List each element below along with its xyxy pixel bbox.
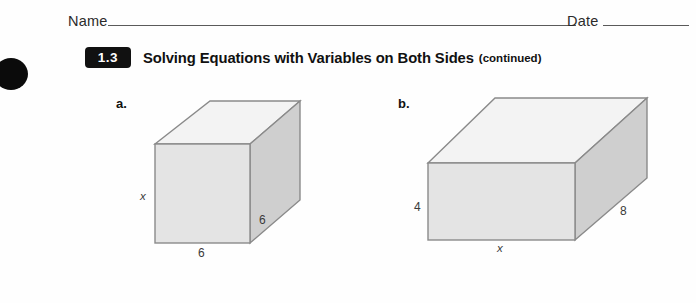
- figure-b-prism-drawing: [380, 88, 680, 268]
- figure-b-depth-label: 8: [620, 204, 627, 218]
- figure-a-depth-label: 6: [259, 213, 266, 227]
- lesson-header: 1.3 Solving Equations with Variables on …: [85, 47, 541, 68]
- figure-a-front-face: [155, 144, 250, 243]
- name-field[interactable]: Name: [68, 12, 576, 29]
- figure-a-height-label: x: [140, 190, 146, 202]
- hole-punch-mark: [0, 58, 28, 90]
- figure-a-prism-drawing: [100, 88, 335, 268]
- name-date-row: Name Date: [68, 12, 686, 36]
- figure-b-height-label: 4: [414, 200, 421, 214]
- lesson-number-badge: 1.3: [85, 47, 131, 68]
- figure-a: a. x 6 6: [100, 88, 335, 268]
- figure-a-width-label: 6: [198, 246, 205, 260]
- worksheet-page: Name Date 1.3 Solving Equations with Var…: [0, 0, 696, 303]
- lesson-continued-label: (continued): [479, 52, 542, 64]
- date-field-label: Date: [567, 13, 598, 29]
- name-field-label: Name: [68, 13, 107, 29]
- date-field[interactable]: Date: [567, 12, 689, 29]
- figure-b: b. 4 x 8: [380, 88, 680, 268]
- figure-b-width-label: x: [497, 242, 503, 254]
- lesson-title: Solving Equations with Variables on Both…: [143, 50, 474, 66]
- date-field-rule[interactable]: [603, 12, 689, 26]
- name-field-rule[interactable]: [108, 12, 576, 26]
- figure-b-front-face: [428, 163, 575, 240]
